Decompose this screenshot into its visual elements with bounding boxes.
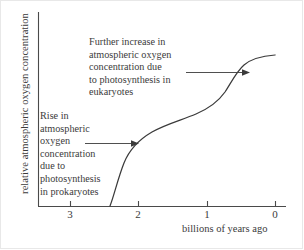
x-tick-label-0: 0 bbox=[267, 208, 283, 220]
x-tick-label-2: 2 bbox=[130, 208, 146, 220]
annotation-prokaryotes-line-1: Rise in bbox=[40, 110, 101, 123]
annotation-prokaryotes: Rise in atmospheric oxygen concentration… bbox=[40, 110, 101, 198]
x-tick-label-3: 3 bbox=[62, 208, 78, 220]
annotation-prokaryotes-line-7: in prokaryotes bbox=[40, 186, 101, 199]
eukaryote-arrow-head bbox=[242, 69, 250, 76]
annotation-eukaryotes: Further increase in atmospheric oxygen c… bbox=[89, 36, 171, 99]
annotation-prokaryotes-line-2: atmospheric bbox=[40, 123, 101, 136]
annotation-eukaryotes-line-2: atmospheric oxygen bbox=[89, 49, 171, 62]
x-axis-label: billions of years ago bbox=[182, 223, 267, 234]
y-axis-label: relative atmospheric oxygen concentratio… bbox=[19, 6, 30, 202]
figure-container: relative atmospheric oxygen concentratio… bbox=[0, 0, 304, 250]
annotation-eukaryotes-line-1: Further increase in bbox=[89, 36, 171, 49]
annotation-prokaryotes-line-6: photosynthesis bbox=[40, 173, 101, 186]
annotation-eukaryotes-line-4: to photosynthesis in bbox=[89, 74, 171, 87]
annotation-prokaryotes-line-5: due to bbox=[40, 160, 101, 173]
annotation-prokaryotes-line-4: concentration bbox=[40, 148, 101, 161]
x-tick-label-1: 1 bbox=[199, 208, 215, 220]
annotation-eukaryotes-line-3: concentration due bbox=[89, 61, 171, 74]
annotation-eukaryotes-line-5: eukaryotes bbox=[89, 86, 171, 99]
annotation-prokaryotes-line-3: oxygen bbox=[40, 135, 101, 148]
